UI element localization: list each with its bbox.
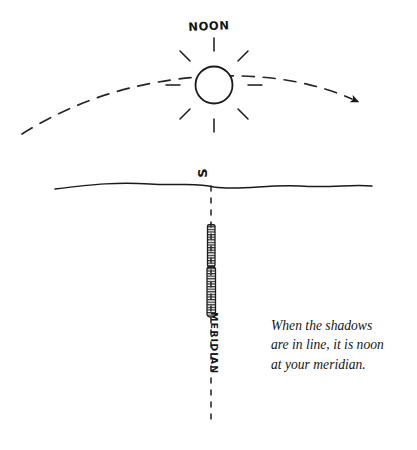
sun-icon <box>196 67 233 104</box>
caption-line-1: When the shadows <box>271 316 403 335</box>
meridian-label: MERIDIAN <box>209 312 219 368</box>
caption-line-2: are in line, it is noon <box>271 335 403 354</box>
diagram-artwork <box>0 0 417 450</box>
caption-text: When the shadows are in line, it is noon… <box>271 316 403 374</box>
sun-path-arc <box>22 76 352 134</box>
shadow-marker-upper <box>208 225 216 268</box>
caption-line-3: at your meridian. <box>271 355 403 374</box>
figure-canvas: NOON S MERIDIAN When the shadows are in … <box>0 0 417 450</box>
noon-label: NOON <box>188 19 230 33</box>
shadow-marker-lower <box>207 267 216 317</box>
south-direction-label: S <box>196 168 210 178</box>
horizon-line <box>55 183 372 189</box>
